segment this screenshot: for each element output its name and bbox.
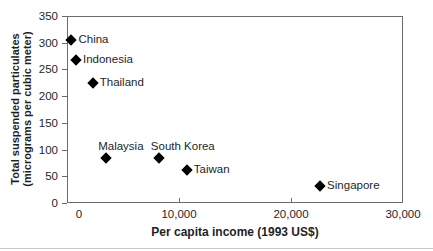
data-point-label: Taiwan — [194, 163, 230, 176]
x-tick — [179, 198, 180, 203]
y-tick — [62, 69, 67, 70]
x-tick — [291, 198, 292, 203]
data-point-label: Indonesia — [83, 53, 133, 66]
y-axis-title: Total suspended particulates (micrograms… — [9, 31, 33, 186]
x-tick-label: 20,000 — [261, 208, 321, 220]
y-tick-label: 50 — [18, 170, 58, 182]
y-tick-label: 200 — [18, 90, 58, 102]
y-tick — [62, 203, 67, 204]
x-tick-label: 0 — [49, 208, 109, 220]
y-tick — [62, 43, 67, 44]
y-tick-label: 150 — [18, 117, 58, 129]
y-tick — [62, 176, 67, 177]
page-bottom-rule — [0, 248, 433, 249]
y-tick-label: 100 — [18, 144, 58, 156]
y-tick — [62, 16, 67, 17]
data-point-label: South Korea — [151, 140, 215, 153]
y-tick — [62, 96, 67, 97]
scatter-chart-figure: Total suspended particulates (micrograms… — [0, 0, 433, 251]
y-tick-label: 350 — [18, 10, 58, 22]
plot-area — [67, 16, 403, 203]
y-tick-label: 300 — [18, 37, 58, 49]
data-point-label: China — [78, 33, 108, 46]
y-tick-label: 250 — [18, 63, 58, 75]
x-axis-title: Per capita income (1993 US$) — [67, 225, 403, 239]
x-tick-label: 30,000 — [373, 208, 433, 220]
y-axis-title-line1: Total suspended particulates — [9, 31, 21, 186]
y-axis-title-line2: (micrograms per cubic meter) — [21, 31, 33, 186]
x-tick-label: 10,000 — [149, 208, 209, 220]
data-point-label: Singapore — [327, 179, 379, 192]
y-tick — [62, 123, 67, 124]
data-point-label: Malaysia — [98, 140, 143, 153]
data-point-label: Thailand — [100, 76, 144, 89]
y-tick — [62, 150, 67, 151]
